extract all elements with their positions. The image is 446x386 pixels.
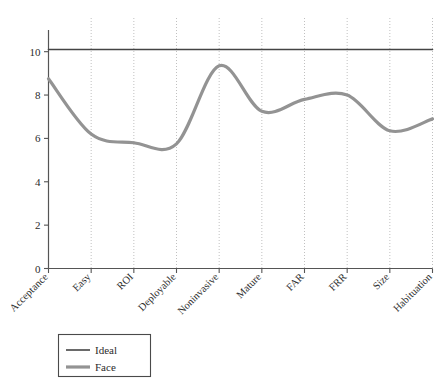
legend-label-ideal: Ideal	[95, 344, 117, 356]
x-tick-label: Noninvasive	[175, 271, 221, 317]
legend-label-face: Face	[95, 361, 116, 373]
x-tick-label: ROI	[115, 271, 136, 292]
x-tick-labels: AcceptanceEasyROIDeployableNoninvasiveMa…	[8, 271, 435, 317]
line-chart: 0246810 AcceptanceEasyROIDeployableNonin…	[0, 0, 446, 386]
x-tick-label: Size	[371, 271, 392, 292]
y-tick-label: 2	[35, 219, 41, 231]
x-axis	[49, 269, 433, 274]
legend: IdealFace	[59, 335, 151, 377]
x-tick-label: Habituation	[391, 271, 434, 314]
x-tick-label: FAR	[284, 271, 306, 293]
series-line-face	[49, 65, 433, 149]
series-group	[49, 50, 433, 150]
x-tick-label: Mature	[234, 271, 263, 300]
y-tick-label: 10	[30, 46, 42, 58]
x-tick-label: Acceptance	[8, 271, 51, 314]
y-axis: 0246810	[30, 30, 49, 275]
y-tick-label: 8	[35, 89, 41, 101]
x-tick-label: Easy	[70, 271, 93, 294]
y-tick-label: 4	[35, 176, 41, 188]
x-tick-label: Deployable	[136, 271, 178, 313]
x-tick-label: FRR	[327, 271, 349, 293]
y-tick-label: 6	[35, 132, 41, 144]
chart-container: 0246810 AcceptanceEasyROIDeployableNonin…	[0, 0, 446, 386]
